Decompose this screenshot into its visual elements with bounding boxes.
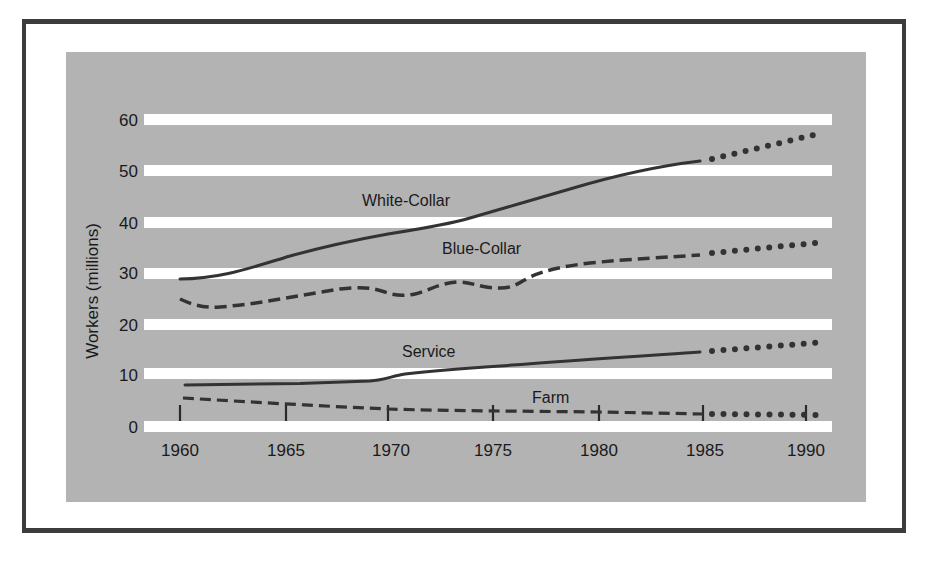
x-tick-1980: 1980 — [580, 441, 618, 460]
label-service: Service — [402, 343, 455, 360]
x-tick-1970: 1970 — [372, 441, 410, 460]
gridline-40 — [144, 217, 832, 228]
y-tick-30: 30 — [119, 264, 138, 283]
y-tick-40: 40 — [119, 214, 138, 233]
y-tick-60: 60 — [119, 111, 138, 130]
x-axis-ticks: 1960 1965 1970 1975 1980 1985 1990 — [161, 441, 825, 460]
gridline-10 — [144, 368, 832, 379]
series-white-collar — [180, 133, 822, 279]
x-tick-1965: 1965 — [267, 441, 305, 460]
gridline-60 — [144, 114, 832, 125]
y-tick-10: 10 — [119, 366, 138, 385]
gridline-20 — [144, 319, 832, 330]
y-tick-20: 20 — [119, 316, 138, 335]
x-tick-1990: 1990 — [787, 441, 825, 460]
y-tick-50: 50 — [119, 162, 138, 181]
x-tick-1985: 1985 — [686, 441, 724, 460]
gridline-0 — [144, 421, 832, 432]
y-tick-0: 0 — [129, 418, 138, 437]
label-blue-collar: Blue-Collar — [442, 240, 522, 257]
x-tick-1975: 1975 — [474, 441, 512, 460]
y-axis-ticks: 60 50 40 30 20 10 0 — [119, 111, 138, 437]
line-chart: 60 50 40 30 20 10 0 Workers (millions) 1… — [0, 0, 930, 566]
label-white-collar: White-Collar — [362, 192, 451, 209]
y-axis-title: Workers (millions) — [83, 223, 102, 359]
series-farm — [183, 398, 826, 415]
gridline-50 — [144, 165, 832, 176]
label-farm: Farm — [532, 389, 569, 406]
x-tick-1960: 1960 — [161, 441, 199, 460]
